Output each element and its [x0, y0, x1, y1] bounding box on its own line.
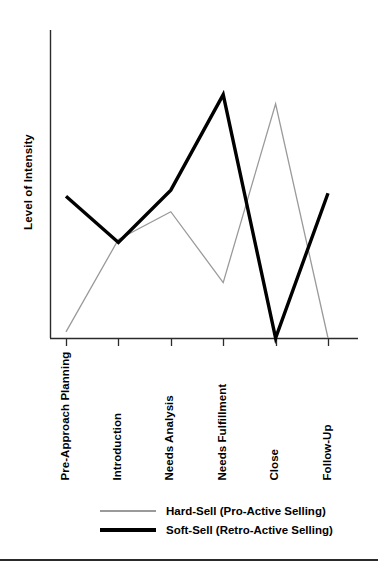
x-axis-label-3: Needs Fulfillment [216, 383, 228, 480]
legend-swatch-bar [100, 528, 156, 532]
chart-figure: Level of Intensity Pre-Approach Planning… [0, 0, 378, 574]
legend-entry-1: Soft-Sell (Retro-Active Selling) [100, 520, 333, 539]
legend-label-1: Soft-Sell (Retro-Active Selling) [166, 524, 333, 536]
plot-area: Level of Intensity [0, 0, 378, 350]
x-axis-label-5: Follow-Up [321, 424, 333, 480]
x-axis-label-0: Pre-Approach Planning [59, 351, 71, 480]
legend-swatch-bar [100, 510, 156, 512]
legend-label-0: Hard-Sell (Pro-Active Selling) [166, 505, 326, 517]
legend-line-swatch-1 [100, 525, 156, 535]
x-axis-tick-labels: Pre-Approach PlanningIntroductionNeeds A… [0, 340, 378, 480]
chart-legend: Hard-Sell (Pro-Active Selling)Soft-Sell … [0, 498, 378, 542]
x-axis-label-2: Needs Analysis [164, 395, 176, 480]
legend-entry-0: Hard-Sell (Pro-Active Selling) [100, 501, 326, 520]
x-axis-label-1: Introduction [111, 412, 123, 480]
axes-group [50, 30, 358, 339]
footer-divider [0, 559, 378, 561]
series-line-1 [66, 95, 328, 338]
x-axis-label-4: Close [269, 448, 281, 480]
line-chart-svg [0, 0, 378, 350]
series-lines [66, 95, 328, 338]
legend-line-swatch-0 [100, 506, 156, 516]
